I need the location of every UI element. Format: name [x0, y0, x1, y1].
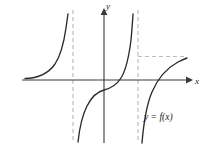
- y-axis-label: y: [105, 1, 110, 11]
- x-axis-arrowhead: [186, 77, 193, 84]
- function-label: y = f(x): [143, 112, 173, 123]
- right-branch-curve: [142, 58, 187, 143]
- x-axis-label: x: [194, 76, 199, 86]
- function-graph-figure: y x y = f(x): [0, 0, 212, 149]
- middle-branch-curve: [78, 14, 133, 142]
- left-branch-curve: [25, 14, 68, 79]
